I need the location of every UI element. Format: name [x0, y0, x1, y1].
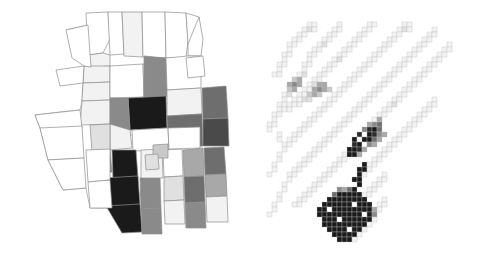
grid-cell[interactable] — [332, 217, 337, 222]
grid-cell[interactable] — [282, 147, 287, 152]
grid-cell[interactable] — [307, 87, 312, 92]
grid-cell[interactable] — [292, 42, 297, 47]
grid-cell[interactable] — [377, 202, 382, 207]
grid-cell[interactable] — [342, 82, 347, 87]
grid-cell[interactable] — [307, 92, 312, 97]
grid-cell[interactable] — [342, 197, 347, 202]
grid-cell[interactable] — [327, 217, 332, 222]
grid-cell[interactable] — [347, 207, 352, 212]
map-region[interactable] — [168, 127, 200, 149]
grid-cell[interactable] — [327, 32, 332, 37]
grid-cell[interactable] — [317, 82, 322, 87]
map-region[interactable] — [88, 53, 110, 67]
grid-cell[interactable] — [407, 127, 412, 132]
grid-cell[interactable] — [362, 172, 367, 177]
grid-cell[interactable] — [342, 47, 347, 52]
map-region[interactable] — [204, 147, 226, 175]
grid-cell[interactable] — [392, 37, 397, 42]
grid-cell[interactable] — [362, 32, 367, 37]
grid-cell[interactable] — [352, 42, 357, 47]
map-region[interactable] — [185, 202, 206, 228]
grid-cell[interactable] — [277, 197, 282, 202]
grid-cell[interactable] — [342, 157, 347, 162]
map-region[interactable] — [80, 100, 110, 125]
grid-cell[interactable] — [382, 82, 387, 87]
grid-cell[interactable] — [352, 217, 357, 222]
grid-cell[interactable] — [367, 202, 372, 207]
grid-cell[interactable] — [297, 197, 302, 202]
grid-cell[interactable] — [292, 82, 297, 87]
grid-cell[interactable] — [382, 112, 387, 117]
grid-cell[interactable] — [352, 142, 357, 147]
grid-cell[interactable] — [432, 27, 437, 32]
grid-cell[interactable] — [362, 167, 367, 172]
grid-cell[interactable] — [337, 207, 342, 212]
grid-cell[interactable] — [362, 202, 367, 207]
grid-cell[interactable] — [342, 232, 347, 237]
grid-cell[interactable] — [312, 112, 317, 117]
map-region[interactable] — [167, 88, 202, 116]
grid-cell[interactable] — [382, 132, 387, 137]
grid-cell[interactable] — [287, 42, 292, 47]
grid-cell[interactable] — [387, 107, 392, 112]
grid-cell[interactable] — [372, 117, 377, 122]
grid-cell[interactable] — [392, 137, 397, 142]
grid-cell[interactable] — [277, 137, 282, 142]
grid-cell[interactable] — [402, 87, 407, 92]
grid-cell[interactable] — [432, 62, 437, 67]
grid-cell[interactable] — [332, 62, 337, 67]
grid-cell[interactable] — [387, 102, 392, 107]
map-region[interactable] — [110, 64, 144, 98]
grid-cell[interactable] — [287, 172, 292, 177]
grid-cell[interactable] — [387, 142, 392, 147]
grid-cell[interactable] — [332, 227, 337, 232]
grid-cell[interactable] — [372, 142, 377, 147]
grid-cell[interactable] — [337, 212, 342, 217]
grid-cell[interactable] — [382, 77, 387, 82]
grid-cell[interactable] — [277, 72, 282, 77]
grid-cell[interactable] — [357, 142, 362, 147]
grid-cell[interactable] — [267, 122, 272, 127]
grid-cell[interactable] — [352, 202, 357, 207]
grid-cell[interactable] — [357, 217, 362, 222]
map-region[interactable] — [141, 208, 162, 234]
grid-cell[interactable] — [362, 132, 367, 137]
grid-cell[interactable] — [422, 67, 427, 72]
grid-cell[interactable] — [372, 132, 377, 137]
grid-cell[interactable] — [287, 142, 292, 147]
grid-cell[interactable] — [272, 122, 277, 127]
grid-cell[interactable] — [337, 222, 342, 227]
grid-cell[interactable] — [312, 92, 317, 97]
grid-cell[interactable] — [337, 232, 342, 237]
grid-cell[interactable] — [377, 207, 382, 212]
grid-cell[interactable] — [322, 212, 327, 217]
grid-cell[interactable] — [347, 187, 352, 192]
grid-cell[interactable] — [427, 107, 432, 112]
grid-cell[interactable] — [352, 192, 357, 197]
grid-cell[interactable] — [377, 87, 382, 92]
grid-cell[interactable] — [347, 47, 352, 52]
grid-cell[interactable] — [297, 202, 302, 207]
grid-cell[interactable] — [287, 52, 292, 57]
grid-cell[interactable] — [367, 137, 372, 142]
grid-cell[interactable] — [332, 92, 337, 97]
grid-cell[interactable] — [367, 187, 372, 192]
grid-cell[interactable] — [337, 22, 342, 27]
grid-cell[interactable] — [292, 37, 297, 42]
grid-cell[interactable] — [357, 232, 362, 237]
grid-cell[interactable] — [382, 42, 387, 47]
map-region[interactable] — [48, 158, 86, 190]
grid-cell[interactable] — [367, 217, 372, 222]
grid-cell[interactable] — [307, 82, 312, 87]
grid-cell[interactable] — [352, 227, 357, 232]
grid-cell[interactable] — [297, 127, 302, 132]
grid-cell[interactable] — [332, 97, 337, 102]
map-region[interactable] — [112, 150, 138, 180]
grid-cell[interactable] — [412, 77, 417, 82]
grid-cell[interactable] — [292, 77, 297, 82]
grid-cell[interactable] — [432, 102, 437, 107]
grid-cell[interactable] — [427, 67, 432, 72]
grid-cell[interactable] — [322, 172, 327, 177]
grid-cell[interactable] — [317, 107, 322, 112]
grid-cell[interactable] — [412, 117, 417, 122]
